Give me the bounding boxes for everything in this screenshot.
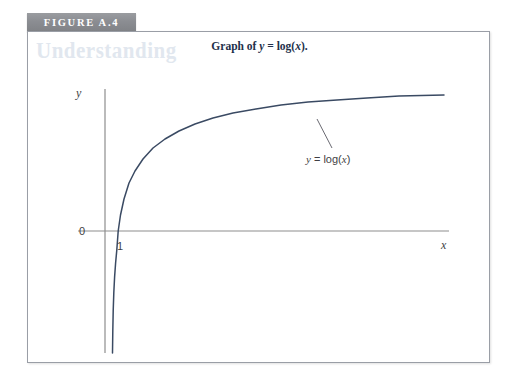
figure-plate: Understanding Graph of y = log(x). y = l… bbox=[27, 31, 490, 363]
y-axis-label: y bbox=[75, 86, 82, 100]
plot-area: y = log(x) y x 0 1 bbox=[28, 32, 489, 362]
curve-annotation-label: y = log(x) bbox=[305, 153, 350, 165]
origin-tick-label: 0 bbox=[79, 225, 85, 237]
annotation-leader-line bbox=[317, 119, 332, 148]
annotation-equals: = log( bbox=[311, 153, 342, 165]
figure-container: FIGURE A.4 Understanding Graph of y = lo… bbox=[0, 0, 516, 383]
log-curve bbox=[113, 95, 445, 353]
figure-tag-label: FIGURE A.4 bbox=[27, 13, 136, 32]
figure-tag-band: FIGURE A.4 bbox=[27, 13, 136, 32]
x-axis-label: x bbox=[440, 238, 447, 252]
x-intercept-tick-label: 1 bbox=[117, 240, 123, 252]
annotation-suffix: ) bbox=[347, 153, 351, 165]
